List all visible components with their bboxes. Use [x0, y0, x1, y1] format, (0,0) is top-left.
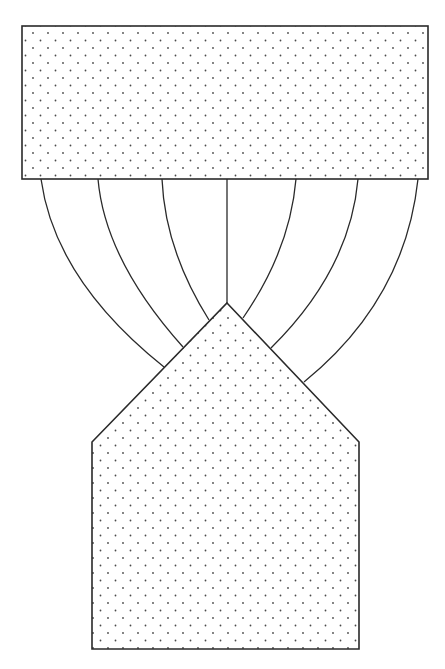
connector-line-2: [98, 179, 183, 347]
connector-line-6: [271, 179, 358, 348]
top-rectangle-block: [22, 26, 428, 179]
diagram-svg: [0, 0, 445, 669]
bottom-pentagon-block: [92, 303, 359, 649]
connector-line-7: [304, 179, 418, 382]
connector-line-5: [243, 179, 296, 318]
connector-line-3: [162, 179, 209, 320]
